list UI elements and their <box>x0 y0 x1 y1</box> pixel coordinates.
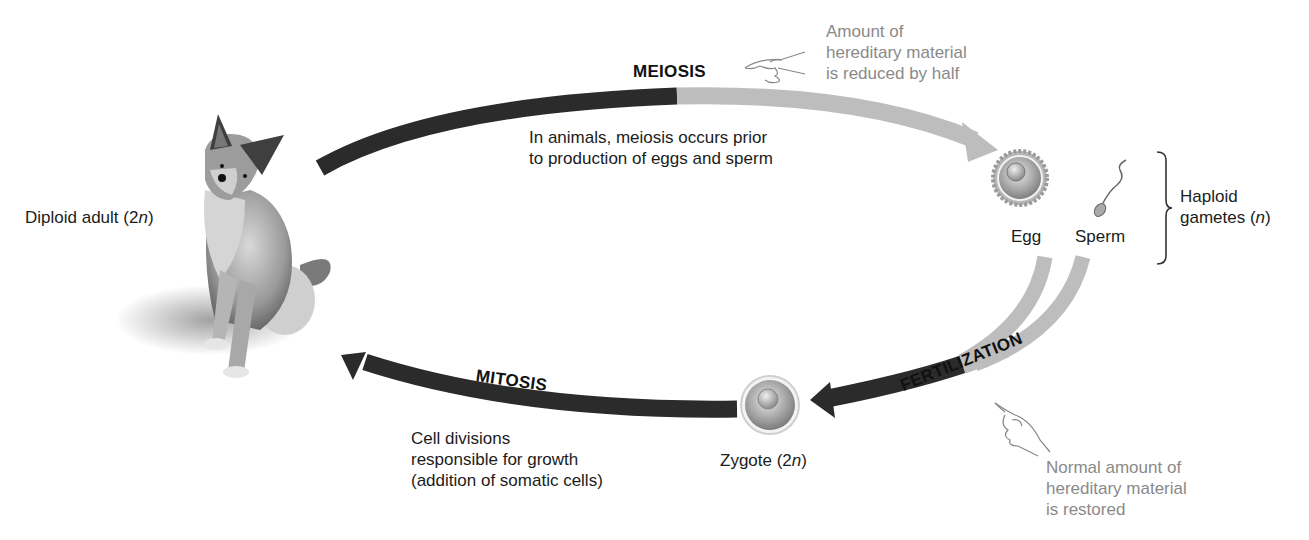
life-cycle-diagram: Diploid adult (2n) MEIOSIS In animals, m… <box>0 0 1309 540</box>
gamete-paths <box>810 257 1083 418</box>
meiosis-arrowhead <box>962 122 998 162</box>
pointing-hand-icon-meiosis <box>745 52 805 83</box>
sperm-label: Sperm <box>1075 226 1125 247</box>
zygote-label: Zygote (2n) <box>720 450 807 471</box>
egg-label: Egg <box>1011 226 1041 247</box>
sperm-cell-icon <box>1092 160 1126 219</box>
haploid-gametes-label: Haploid gametes (n) <box>1180 186 1271 228</box>
zygote-cell-icon <box>741 376 799 434</box>
meiosis-title: MEIOSIS <box>633 62 706 82</box>
mitosis-arrowhead <box>341 352 366 380</box>
adult-label: Diploid adult (2n) <box>25 207 154 228</box>
gametes-brace <box>1157 152 1172 264</box>
fertilization-arrowhead <box>810 382 835 418</box>
egg-cell-icon <box>993 151 1047 205</box>
meiosis-description: In animals, meiosis occurs prior to prod… <box>529 127 773 169</box>
fertilization-note: Normal amount of hereditary material is … <box>1046 457 1187 520</box>
meiosis-note: Amount of hereditary material is reduced… <box>826 21 967 84</box>
dog-illustration <box>115 114 331 378</box>
mitosis-description: Cell divisions responsible for growth (a… <box>411 428 603 491</box>
pointing-hand-icon-fertilization <box>995 403 1050 456</box>
